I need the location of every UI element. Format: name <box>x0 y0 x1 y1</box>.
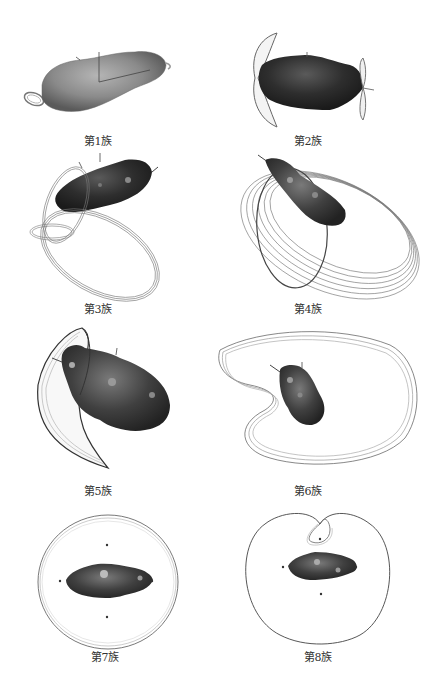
asteroid-orbit-figure-4 <box>220 150 440 320</box>
panel-family-5: 第5族 <box>0 320 220 500</box>
caption-family-2: 第2族 <box>268 132 348 148</box>
caption-family-7: 第7族 <box>65 648 145 664</box>
panel-family-6: 第6族 <box>220 320 440 500</box>
asteroid-orbit-figure-1 <box>0 0 220 150</box>
asteroid-orbit-figure-6 <box>220 320 440 500</box>
caption-family-5: 第5族 <box>58 482 138 498</box>
caption-family-1: 第1族 <box>58 132 138 148</box>
asteroid-orbit-figure-3 <box>0 150 220 320</box>
asteroid-orbit-figure-5 <box>0 320 220 500</box>
asteroid-orbit-figure-8 <box>220 500 440 700</box>
panel-family-8: 第8族 <box>220 500 440 700</box>
panel-family-1: 第1族 <box>0 0 220 150</box>
panel-family-2: 第2族 <box>220 0 440 150</box>
asteroid-orbit-figure-7 <box>0 500 220 700</box>
panel-family-3: 第3族 <box>0 150 220 320</box>
caption-family-3: 第3族 <box>58 300 138 316</box>
caption-family-4: 第4族 <box>268 300 348 316</box>
caption-family-8: 第8族 <box>278 648 358 664</box>
asteroid-orbit-figure-2 <box>220 0 440 150</box>
panel-family-4: 第4族 <box>220 150 440 320</box>
panel-family-7: 第7族 <box>0 500 220 700</box>
caption-family-6: 第6族 <box>268 482 348 498</box>
